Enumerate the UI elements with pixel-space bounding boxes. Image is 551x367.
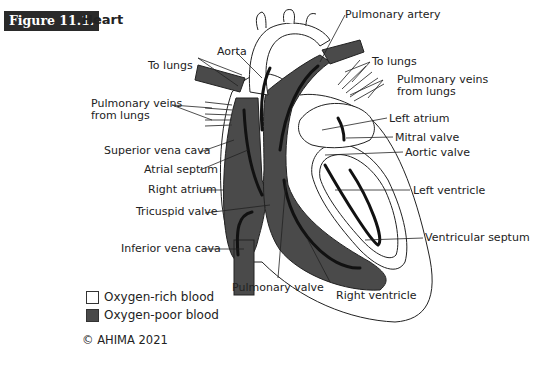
label-atrial-septum: Atrial septum [144,164,218,176]
label-left-ventricle: Left ventricle [413,185,485,197]
label-right-atrium: Right atrium [148,184,217,196]
left-atrium-wall [299,103,375,147]
label-mitral-valve: Mitral valve [395,132,459,144]
pulmonary-artery-right-branch [322,40,364,64]
label-right-ventricle: Right ventricle [336,290,416,302]
label-pulmonary-valve: Pulmonary valve [232,282,324,294]
aortic-branch-3 [306,14,316,27]
aortic-branch-1 [256,12,266,30]
legend-swatch-oxygen-poor [86,309,99,322]
legend-label-oxygen-rich: Oxygen-rich blood [104,290,214,304]
label-pulmonary-artery: Pulmonary artery [345,9,441,21]
copyright-notice: © AHIMA 2021 [82,333,168,347]
label-superior-vena-cava: Superior vena cava [104,145,211,157]
label-ventricular-septum: Ventricular septum [425,232,530,244]
legend-label-oxygen-poor: Oxygen-poor blood [104,308,219,322]
label-to-lungs-left: To lungs [148,60,193,72]
label-tricuspid-valve: Tricuspid valve [136,206,218,218]
label-to-lungs-right: To lungs [372,56,417,68]
legend-item-oxygen-poor: Oxygen-poor blood [86,308,219,322]
legend-swatch-oxygen-rich [86,291,99,304]
label-pulmonary-veins-left-line2: from lungs [91,110,150,122]
label-inferior-vena-cava: Inferior vena cava [121,243,221,255]
legend-item-oxygen-rich: Oxygen-rich blood [86,290,214,304]
label-left-atrium: Left atrium [389,113,450,125]
label-aortic-valve: Aortic valve [405,147,470,159]
pulmonary-artery-left-branch [195,65,245,92]
label-aorta: Aorta [217,46,247,58]
label-pulmonary-veins-right-line2: from lungs [397,86,456,98]
aortic-branch-2 [283,10,294,25]
